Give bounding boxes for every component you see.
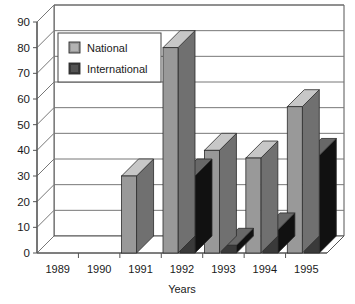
y-axis-tick-label: 60	[17, 93, 30, 105]
bar-national-1992-front	[163, 48, 178, 253]
x-axis-category-label: 1991	[128, 263, 152, 275]
x-axis-title: Years	[168, 283, 196, 295]
bar-chart: 0102030405060708090198919901991199219931…	[0, 0, 355, 304]
x-axis-category-label: 1989	[45, 263, 69, 275]
x-axis-category-label: 1990	[87, 263, 111, 275]
plot-left-wall	[37, 5, 54, 253]
chart-legend: NationalInternational	[58, 33, 161, 82]
y-axis-tick-label: 40	[17, 144, 30, 156]
x-axis-category-label: 1995	[294, 263, 318, 275]
bar-national-1995-side	[302, 90, 319, 253]
y-axis-tick-label: 30	[17, 170, 30, 182]
bar-national-1994-side	[261, 141, 278, 253]
chart-canvas: 0102030405060708090198919901991199219931…	[0, 0, 355, 304]
x-axis-category-label: 1992	[170, 263, 194, 275]
x-axis-category-label: 1993	[211, 263, 235, 275]
bar-national-1991-front	[122, 176, 137, 253]
legend-label-international: International	[87, 63, 148, 75]
y-axis-tick-label: 20	[17, 196, 30, 208]
y-axis-tick-label: 50	[17, 119, 30, 131]
bar-international-1995-side	[319, 138, 336, 253]
legend-swatch-highlight-international	[71, 65, 78, 72]
legend-label-national: National	[87, 42, 127, 54]
legend-swatch-highlight-national	[71, 44, 78, 51]
y-axis-tick-label: 10	[17, 221, 30, 233]
y-axis-tick-label: 80	[17, 42, 30, 54]
bar-national-1991	[122, 159, 154, 253]
bar-national-1992	[163, 31, 195, 253]
bar-national-1993-side	[219, 133, 236, 253]
y-axis-tick-label: 0	[24, 247, 30, 259]
y-axis-tick-label: 70	[17, 67, 30, 79]
y-axis-tick-label: 90	[17, 16, 30, 28]
x-axis-category-label: 1994	[253, 263, 277, 275]
bar-national-1992-side	[178, 31, 195, 253]
